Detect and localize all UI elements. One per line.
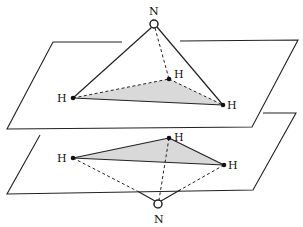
bottom-nitrogen-atom (154, 200, 162, 208)
bottom-n-label: N (154, 213, 164, 226)
top-molecule: N H H H (57, 5, 237, 112)
top-hydrogen-right (221, 103, 226, 108)
bottom-hydrogen-left (71, 156, 76, 161)
top-n-label: N (149, 5, 159, 18)
bottom-hydrogen-right (222, 163, 227, 168)
bottom-h-label-top: H (174, 131, 184, 144)
bottom-bond-n-h-left-solid (139, 192, 155, 201)
bottom-h-label-left: H (57, 152, 67, 165)
bottom-molecule: H H H N (57, 131, 238, 226)
top-h-label-back: H (174, 68, 184, 81)
top-h-label-right: H (227, 99, 237, 112)
ammonia-inversion-diagram: N H H H H H H N (0, 0, 303, 227)
bottom-bond-n-h-right-dashed (180, 165, 224, 190)
top-nitrogen-atom (150, 20, 158, 28)
bottom-hydrogen-top (167, 136, 172, 141)
bottom-bond-n-h-left-dashed (73, 158, 139, 192)
top-bond-n-h-back (155, 28, 169, 79)
top-h-label-left: H (57, 92, 67, 105)
bottom-h-label-right: H (228, 159, 238, 172)
top-hydrogen-left (71, 96, 76, 101)
top-hydrogen-back (167, 77, 172, 82)
